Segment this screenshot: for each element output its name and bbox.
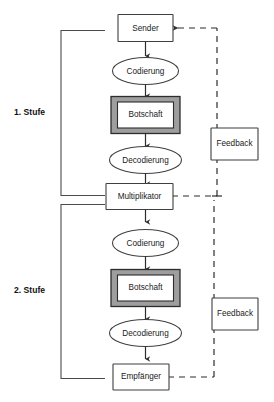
node-feedback-2[interactable]: Feedback <box>212 298 258 330</box>
node-botschaft-2[interactable]: Botschaft <box>111 270 180 307</box>
node-feedback-1[interactable]: Feedback <box>211 128 258 160</box>
node-feedback-1-label: Feedback <box>217 139 254 148</box>
communication-flow-diagram: 1. Stufe 2. Stufe Sender Codierung <box>0 0 274 402</box>
node-botschaft-1[interactable]: Botschaft <box>111 97 180 134</box>
stage-1-bracket <box>61 31 105 196</box>
node-codierung-2-label: Codierung <box>127 239 165 248</box>
node-codierung-1[interactable]: Codierung <box>113 58 179 85</box>
node-empfaenger-label: Empfänger <box>121 372 161 381</box>
node-decodierung-2[interactable]: Decodierung <box>110 320 182 347</box>
stage-2-bracket <box>61 205 105 379</box>
node-decodierung-1-label: Decodierung <box>122 156 169 165</box>
node-multiplikator-label: Multiplikator <box>118 192 162 201</box>
node-sender[interactable]: Sender <box>118 15 173 42</box>
node-decodierung-1[interactable]: Decodierung <box>110 147 182 174</box>
node-botschaft-2-label: Botschaft <box>128 283 163 292</box>
node-multiplikator[interactable]: Multiplikator <box>106 184 173 210</box>
stage-1-label: 1. Stufe <box>14 107 45 117</box>
node-botschaft-1-label: Botschaft <box>128 110 163 119</box>
node-empfaenger[interactable]: Empfänger <box>113 364 169 390</box>
diagram-canvas: 1. Stufe 2. Stufe Sender Codierung <box>0 0 274 402</box>
node-sender-label: Sender <box>132 24 159 33</box>
node-codierung-1-label: Codierung <box>127 67 165 76</box>
stage-2-label: 2. Stufe <box>14 285 45 295</box>
node-codierung-2[interactable]: Codierung <box>113 230 179 257</box>
node-feedback-2-label: Feedback <box>217 309 254 318</box>
node-decodierung-2-label: Decodierung <box>122 329 169 338</box>
